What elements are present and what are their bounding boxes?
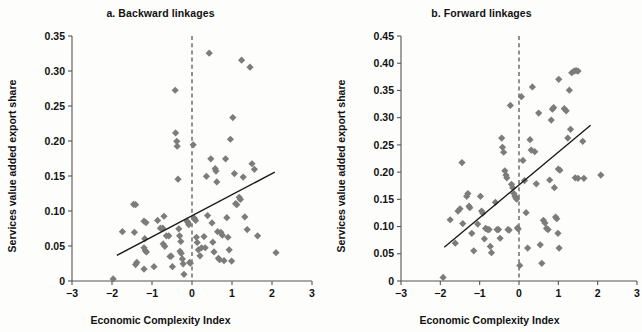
scatter-point	[229, 114, 236, 121]
scatter-point	[241, 213, 248, 220]
scatter-point	[231, 170, 238, 177]
x-tick-label: 1	[555, 287, 561, 299]
scatter-point	[567, 126, 574, 133]
scatter-plot-b: 00.050.100.150.200.250.300.350.400.45−3−…	[321, 0, 642, 332]
y-tick-label: 0.20	[45, 135, 66, 147]
scatter-point	[175, 225, 182, 232]
y-tick-label: 0.35	[374, 84, 395, 96]
scatter-point	[481, 235, 488, 242]
scatter-point	[580, 175, 587, 182]
scatter-point	[176, 232, 183, 239]
y-tick-label: 0.15	[45, 170, 66, 182]
scatter-point	[522, 209, 529, 216]
x-axis-label-a: Economic Complexity Index	[0, 314, 321, 326]
scatter-point	[579, 138, 586, 145]
scatter-point	[200, 233, 207, 240]
y-tick-label: 0.30	[374, 111, 395, 123]
scatter-point	[140, 266, 147, 273]
y-tick-label: 0.35	[45, 30, 66, 42]
x-tick-label: 0	[516, 287, 522, 299]
x-tick-label: −3	[66, 287, 78, 299]
scatter-point	[180, 271, 187, 278]
scatter-point	[213, 178, 220, 185]
x-tick-label: 3	[309, 287, 315, 299]
scatter-point	[196, 252, 203, 259]
y-tick-label: 0.25	[374, 139, 395, 151]
scatter-point	[551, 184, 558, 191]
y-tick-label: 0	[59, 275, 65, 287]
x-tick-label: 2	[595, 287, 601, 299]
scatter-point	[498, 134, 505, 141]
scatter-point	[203, 173, 210, 180]
scatter-point	[209, 239, 216, 246]
y-tick-label: 0.20	[374, 166, 395, 178]
scatter-point	[497, 235, 504, 242]
x-tick-label: 2	[269, 287, 275, 299]
scatter-point	[223, 214, 230, 221]
scatter-point	[546, 176, 553, 183]
scatter-point	[458, 159, 465, 166]
scatter-point	[477, 193, 484, 200]
scatter-point	[488, 249, 495, 256]
y-tick-label: 0.10	[45, 205, 66, 217]
scatter-point	[459, 220, 466, 227]
scatter-point	[272, 249, 279, 256]
x-tick-label: −2	[434, 287, 446, 299]
scatter-point	[207, 155, 214, 162]
scatter-point	[535, 109, 542, 116]
scatter-point	[487, 243, 494, 250]
scatter-point	[204, 212, 211, 219]
y-tick-label: 0.45	[374, 30, 395, 42]
scatter-point	[206, 50, 213, 57]
scatter-point	[516, 262, 523, 269]
y-tick-label: 0.05	[374, 247, 395, 259]
y-tick-label: 0.40	[374, 57, 395, 69]
scatter-point	[150, 263, 157, 270]
scatter-point	[180, 260, 187, 267]
scatter-point	[566, 87, 573, 94]
scatter-point	[226, 246, 233, 253]
y-axis-label-a: Services value added export share	[6, 51, 18, 281]
scatter-point	[538, 260, 545, 267]
scatter-point	[537, 241, 544, 248]
y-tick-label: 0.15	[374, 193, 395, 205]
scatter-point	[597, 172, 604, 179]
scatter-point	[240, 173, 247, 180]
scatter-point	[507, 102, 514, 109]
scatter-point	[529, 83, 536, 90]
scatter-point	[246, 64, 253, 71]
scatter-point	[564, 134, 571, 141]
x-tick-label: 0	[189, 287, 195, 299]
scatter-point	[556, 244, 563, 251]
y-tick-label: 0.10	[374, 220, 395, 232]
chart-panel-backward-linkages: a. Backward linkages 00.050.100.150.200.…	[0, 0, 321, 332]
scatter-point	[238, 57, 245, 64]
scatter-point	[500, 149, 507, 156]
y-tick-label: 0.30	[45, 65, 66, 77]
scatter-point	[177, 238, 184, 245]
scatter-point	[172, 87, 179, 94]
scatter-point	[228, 257, 235, 264]
scatter-point	[202, 244, 209, 251]
x-tick-label: 1	[229, 287, 235, 299]
x-tick-label: −1	[146, 287, 158, 299]
figure-container: a. Backward linkages 00.050.100.150.200.…	[0, 0, 642, 332]
scatter-point	[174, 176, 181, 183]
scatter-point	[190, 141, 197, 148]
scatter-point	[160, 213, 167, 220]
scatter-point	[174, 143, 181, 150]
scatter-point	[526, 136, 533, 143]
x-tick-label: 3	[634, 287, 640, 299]
scatter-point	[169, 263, 176, 270]
scatter-point	[172, 129, 179, 136]
scatter-point	[119, 228, 126, 235]
scatter-point	[555, 76, 562, 83]
y-tick-label: 0	[388, 275, 394, 287]
scatter-point	[210, 248, 217, 255]
scatter-point	[131, 229, 138, 236]
chart-panel-forward-linkages: b. Forward linkages 00.050.100.150.200.2…	[321, 0, 642, 332]
y-tick-label: 0.25	[45, 100, 66, 112]
x-tick-label: −1	[474, 287, 486, 299]
scatter-point	[519, 157, 526, 164]
scatter-point	[447, 216, 454, 223]
